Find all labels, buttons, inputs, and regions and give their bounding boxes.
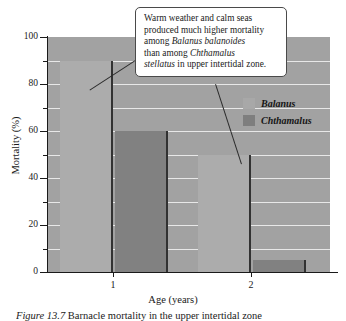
legend: Balanus Chthamalus: [243, 95, 312, 129]
y-tick-major-60: [40, 131, 48, 132]
y-tick-major-80: [40, 84, 48, 85]
bar-fill: [253, 260, 304, 272]
annotation-callout: Warm weather and calm seas produced much…: [135, 7, 287, 77]
y-tick-major-0: [40, 272, 48, 273]
y-tick-label-40: 40: [29, 173, 39, 183]
bar-shadow-edge: [249, 155, 251, 273]
figure-number: Figure 13.7: [16, 310, 65, 321]
callout-line-2: produced much higher mortality: [144, 25, 279, 37]
callout-line-5: stellatus in upper intertidal zone.: [144, 59, 279, 71]
callout-species-stellatus: stellatus: [144, 59, 175, 69]
y-tick-label-80: 80: [29, 79, 39, 89]
bar-fill: [60, 61, 111, 273]
y-tick-label-100: 100: [24, 32, 38, 42]
x-tick-1: [113, 272, 114, 277]
legend-item-chthamalus[interactable]: Chthamalus: [243, 112, 312, 129]
y-tick-minor-10: [43, 249, 48, 250]
callout-line-4: than among Chthamalus: [144, 48, 279, 60]
legend-label-balanus: Balanus: [261, 98, 295, 109]
bar-chthamalus-age-1[interactable]: [115, 131, 166, 272]
callout-species-chthamalus: Chthamalus: [190, 48, 235, 58]
x-tick-label-2: 2: [241, 279, 261, 290]
y-tick-label-20: 20: [29, 220, 39, 230]
figure-caption: Figure 13.7 Barnacle mortality in the up…: [16, 310, 336, 321]
y-tick-minor-50: [43, 155, 48, 156]
y-tick-minor-30: [43, 202, 48, 203]
callout-line-3-text: among: [144, 36, 172, 46]
bar-balanus-age-1[interactable]: [60, 61, 111, 273]
bar-shadow-edge: [304, 260, 306, 272]
y-tick-label-0: 0: [33, 267, 38, 277]
x-axis-line: [40, 272, 338, 273]
y-tick-minor-90: [43, 61, 48, 62]
y-axis-title: Mortality (%): [10, 101, 21, 191]
callout-species-balanus: Balanus balanoides: [172, 36, 246, 46]
y-tick-minor-70: [43, 108, 48, 109]
x-tick-2: [251, 272, 252, 277]
figure-root: Balanus Chthamalus 100 80 60 40 20 0 1 2…: [0, 0, 346, 321]
bar-shadow-edge: [166, 131, 168, 272]
legend-swatch-chthamalus-icon: [243, 115, 255, 126]
x-tick-label-1: 1: [103, 279, 123, 290]
figure-caption-text: Barnacle mortality in the upper intertid…: [68, 310, 262, 321]
callout-line-5-text: in upper intertidal zone.: [175, 59, 266, 69]
bar-balanus-age-2[interactable]: [198, 155, 249, 273]
bar-fill: [198, 155, 249, 273]
bar-fill: [115, 131, 166, 272]
bar-chthamalus-age-2[interactable]: [253, 260, 304, 272]
y-tick-major-20: [40, 225, 48, 226]
callout-line-1: Warm weather and calm seas: [144, 13, 279, 25]
callout-line-3: among Balanus balanoides: [144, 36, 279, 48]
y-tick-label-60: 60: [29, 126, 39, 136]
legend-item-balanus[interactable]: Balanus: [243, 95, 312, 112]
bar-shadow-edge: [111, 61, 113, 273]
legend-label-chthamalus: Chthamalus: [261, 115, 312, 126]
x-axis-title: Age (years): [0, 294, 346, 305]
legend-swatch-balanus-icon: [243, 98, 255, 109]
y-tick-major-40: [40, 178, 48, 179]
callout-line-4-text: than among: [144, 48, 190, 58]
y-tick-major-100: [40, 37, 48, 38]
